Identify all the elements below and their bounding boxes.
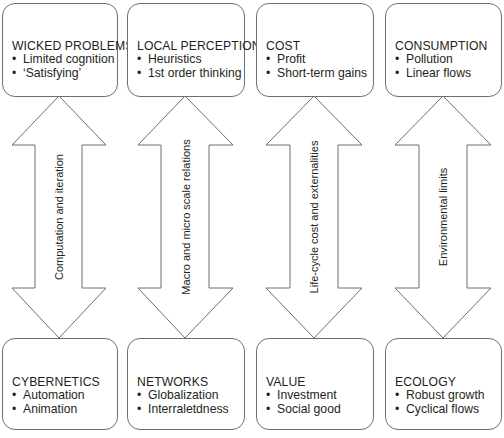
bullet-item: Linear flows	[395, 67, 488, 81]
bullet-item: Robust growth	[395, 389, 485, 403]
bullet-list: Profit Short-term gains	[266, 53, 367, 80]
bullet-item: Interraletdness	[137, 403, 229, 417]
bullet-item: Pollution	[395, 53, 488, 67]
arrow-label-3: Life-cycle cost and externalities	[308, 141, 320, 294]
box-content: CONSUMPTION Pollution Linear flows	[395, 39, 488, 80]
box-title: COST	[266, 39, 367, 53]
box-content: CYBERNETICS Automation Animation	[12, 375, 100, 416]
box-networks: NETWORKS Globalization Interraletdness	[127, 338, 245, 430]
box-local-perception: LOCAL PERCEPTION Heuristics 1st order th…	[127, 3, 245, 97]
box-title: VALUE	[266, 375, 341, 389]
box-content: NETWORKS Globalization Interraletdness	[137, 375, 229, 416]
box-content: ECOLOGY Robust growth Cyclical flows	[395, 375, 485, 416]
bullet-item: Automation	[12, 389, 100, 403]
bullet-list: Automation Animation	[12, 389, 100, 416]
box-title: WICKED PROBLEMS	[12, 39, 133, 53]
bullet-item: Profit	[266, 53, 367, 67]
bullet-item: Short-term gains	[266, 67, 367, 81]
bullet-item: Social good	[266, 403, 341, 417]
bullet-item: Globalization	[137, 389, 229, 403]
arrow-label-4: Environmental limits	[437, 168, 449, 266]
bullet-item: 1st order thinking	[137, 67, 261, 81]
bullet-item: Heuristics	[137, 53, 261, 67]
bullet-item: Animation	[12, 403, 100, 417]
bullet-item: ‘Satisfying’	[12, 67, 133, 81]
box-consumption: CONSUMPTION Pollution Linear flows	[385, 3, 502, 97]
bullet-list: Pollution Linear flows	[395, 53, 488, 80]
box-content: WICKED PROBLEMS Limited cognition ‘Satis…	[12, 39, 133, 80]
arrow-label-2: Macro and micro scale relations	[180, 139, 192, 294]
bullet-list: Robust growth Cyclical flows	[395, 389, 485, 416]
bullet-item: Investment	[266, 389, 341, 403]
box-title: LOCAL PERCEPTION	[137, 39, 261, 53]
box-title: CYBERNETICS	[12, 375, 100, 389]
bullet-list: Investment Social good	[266, 389, 341, 416]
box-content: VALUE Investment Social good	[266, 375, 341, 416]
box-value: VALUE Investment Social good	[256, 338, 374, 430]
box-ecology: ECOLOGY Robust growth Cyclical flows	[385, 338, 502, 430]
bullet-list: Heuristics 1st order thinking	[137, 53, 261, 80]
bullet-list: Globalization Interraletdness	[137, 389, 229, 416]
bullet-item: Limited cognition	[12, 53, 133, 67]
bullet-item: Cyclical flows	[395, 403, 485, 417]
box-wicked-problems: WICKED PROBLEMS Limited cognition ‘Satis…	[2, 3, 118, 97]
box-cost: COST Profit Short-term gains	[256, 3, 374, 97]
box-content: COST Profit Short-term gains	[266, 39, 367, 80]
box-content: LOCAL PERCEPTION Heuristics 1st order th…	[137, 39, 261, 80]
box-title: NETWORKS	[137, 375, 229, 389]
box-title: CONSUMPTION	[395, 39, 488, 53]
bullet-list: Limited cognition ‘Satisfying’	[12, 53, 133, 80]
arrow-label-1: Computation and iteration	[53, 154, 65, 280]
box-title: ECOLOGY	[395, 375, 485, 389]
box-cybernetics: CYBERNETICS Automation Animation	[2, 338, 118, 430]
